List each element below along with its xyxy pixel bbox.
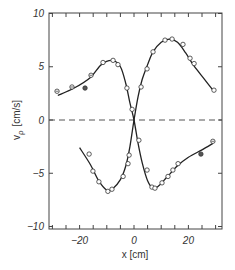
- y-tick-labels: 1050−5−10: [27, 8, 44, 232]
- data-point: [116, 62, 120, 66]
- data-point: [145, 168, 149, 172]
- data-point: [110, 187, 114, 191]
- y-tick-label: −10: [27, 221, 44, 232]
- x-tick-label: 0: [131, 235, 137, 246]
- axis-ticks: [49, 13, 222, 229]
- data-point: [106, 189, 110, 193]
- fit-curves: [58, 39, 213, 191]
- data-point: [126, 161, 130, 165]
- data-point: [176, 161, 180, 165]
- y-axis-title: vρ[cm/s]: [11, 100, 25, 140]
- data-point: [192, 61, 196, 65]
- fit-curve: [58, 60, 213, 188]
- x-tick-label: 20: [182, 235, 195, 246]
- data-points: [55, 37, 216, 194]
- data-point: [125, 86, 129, 90]
- y-tick-label: 0: [38, 115, 44, 126]
- data-point: [212, 88, 216, 92]
- data-point: [130, 107, 134, 111]
- chart: 1050−5−10 −20020 x [cm] vρ[cm/s]: [0, 0, 235, 270]
- data-point: [111, 58, 115, 62]
- data-point: [97, 180, 101, 184]
- data-point: [188, 56, 192, 60]
- data-point: [137, 138, 141, 142]
- data-point: [139, 85, 143, 89]
- data-point: [145, 67, 149, 71]
- data-point: [153, 186, 157, 190]
- svg-text:vρ[cm/s]: vρ[cm/s]: [11, 100, 25, 140]
- data-point: [127, 153, 131, 157]
- y-tick-label: −5: [33, 168, 45, 179]
- data-point: [160, 181, 164, 185]
- y-tick-label: 5: [38, 61, 44, 72]
- data-point-filled: [199, 152, 203, 156]
- y-axis-unit: [cm/s]: [11, 100, 22, 127]
- data-point: [151, 50, 155, 54]
- x-axis-title: x [cm]: [122, 249, 149, 260]
- data-point: [171, 168, 175, 172]
- data-point: [170, 37, 174, 41]
- data-point: [87, 152, 91, 156]
- data-point-filled: [83, 86, 87, 90]
- data-point: [121, 174, 125, 178]
- data-point: [101, 60, 105, 64]
- x-tick-label: −20: [71, 235, 88, 246]
- plot-frame: [49, 13, 222, 229]
- data-point: [91, 169, 95, 173]
- data-point: [166, 174, 170, 178]
- data-point: [163, 38, 167, 42]
- y-axis-subscript: ρ: [16, 130, 25, 135]
- y-tick-label: 10: [33, 8, 45, 19]
- x-tick-labels: −20020: [71, 235, 194, 246]
- data-point: [181, 42, 185, 46]
